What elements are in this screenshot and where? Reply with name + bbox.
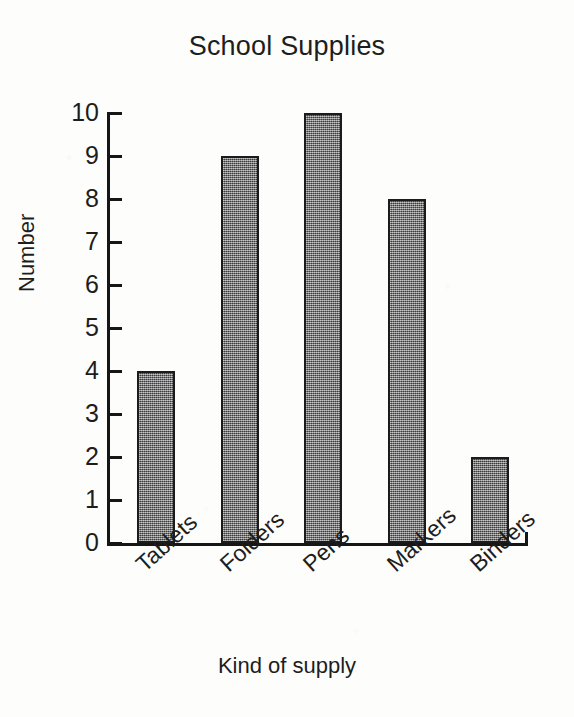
page-title: School Supplies — [0, 31, 574, 62]
y-axis-tick-label: 5 — [85, 315, 99, 340]
y-axis-tick-mark — [110, 499, 122, 502]
y-axis-tick-mark — [110, 155, 122, 158]
y-axis-tick: 0 — [110, 542, 122, 545]
y-axis-tick-mark — [110, 241, 122, 244]
y-axis-tick-label: 2 — [85, 444, 99, 469]
y-axis-tick: 1 — [110, 499, 122, 502]
y-axis-tick: 3 — [110, 413, 122, 416]
y-axis-tick: 7 — [110, 241, 122, 244]
y-axis-tick-mark — [110, 112, 122, 115]
y-axis-tick-mark — [110, 456, 122, 459]
x-axis-title-text: Kind of supply — [218, 653, 356, 679]
y-axis-tick-mark — [110, 542, 122, 545]
bar — [388, 199, 426, 543]
y-axis-tick-label: 9 — [85, 143, 99, 168]
y-axis-tick-label: 8 — [85, 186, 99, 211]
y-axis-tick: 4 — [110, 370, 122, 373]
y-axis-tick-mark — [110, 198, 122, 201]
y-axis-tick: 5 — [110, 327, 122, 330]
plot-area: 109876543210 TabletsFoldersPensMarkersBi… — [110, 113, 528, 543]
y-axis-tick-label: 0 — [85, 530, 99, 555]
y-axis-tick: 8 — [110, 198, 122, 201]
y-axis-tick-label: 10 — [71, 100, 99, 125]
bar — [137, 371, 175, 543]
y-axis-tick-mark — [110, 413, 122, 416]
bar — [304, 113, 342, 543]
y-axis-tick-label: 6 — [85, 272, 99, 297]
y-axis-tick-label: 1 — [85, 487, 99, 512]
y-axis-tick-label: 7 — [85, 229, 99, 254]
bar — [221, 156, 259, 543]
y-axis-tick-mark — [110, 284, 122, 287]
chart-title-text: School Supplies — [189, 31, 386, 62]
y-axis-tick: 6 — [110, 284, 122, 287]
y-axis-title: Number — [14, 248, 40, 292]
y-axis-title-text: Number — [14, 214, 39, 292]
y-axis-tick-label: 3 — [85, 401, 99, 426]
y-axis-tick-label: 4 — [85, 358, 99, 383]
y-axis-tick-mark — [110, 370, 122, 373]
x-axis-title: Kind of supply — [0, 653, 574, 679]
y-axis-tick: 9 — [110, 155, 122, 158]
y-axis-tick-mark — [110, 327, 122, 330]
y-axis-tick: 10 — [110, 112, 122, 115]
y-axis-tick: 2 — [110, 456, 122, 459]
